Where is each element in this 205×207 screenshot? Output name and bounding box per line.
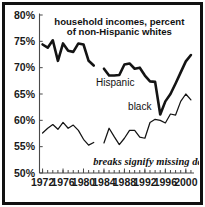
chart-annotation: breaks signify missing data <box>93 156 199 167</box>
plot-area: 80%75%70%65%60%55%50%1972197619801984198… <box>6 6 199 201</box>
series-label-black: black <box>128 101 152 112</box>
chart-figure: 80%75%70%65%60%55%50%1972197619801984198… <box>0 0 205 207</box>
y-axis-label: 70% <box>14 61 36 73</box>
series-line-hispanic <box>43 40 94 65</box>
y-axis-label: 60% <box>14 114 36 126</box>
line-chart: 80%75%70%65%60%55%50%1972197619801984198… <box>6 6 199 201</box>
y-axis-label: 55% <box>14 140 36 152</box>
y-axis-label: 75% <box>14 35 36 47</box>
y-axis-label: 80% <box>14 9 36 21</box>
chart-title-line1: household incomes, percent <box>54 16 185 27</box>
series-line-black <box>43 122 94 145</box>
chart-title-line2: of non-Hispanic whites <box>67 26 172 37</box>
series-label-hispanic: Hispanic <box>96 77 134 88</box>
y-axis-label: 65% <box>14 88 36 100</box>
x-axis-label: 2000 <box>174 176 198 188</box>
